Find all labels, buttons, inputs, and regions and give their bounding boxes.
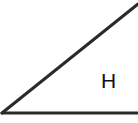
vertex-label-h: H <box>101 70 116 91</box>
hypotenuse-line <box>2 4 138 113</box>
triangle-diagram <box>0 0 138 123</box>
